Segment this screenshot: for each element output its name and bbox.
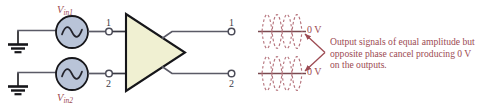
output-waveform-1 [258,15,306,49]
ground-1 [8,31,28,52]
output-terminal-2[interactable] [228,70,235,77]
ground-2 [8,73,28,94]
voltage-source-vin2[interactable] [56,58,88,90]
source-label-vin1: Vin1 [57,5,73,16]
output-terminal-2-label: 2 [229,79,234,89]
output-waveform-2 [258,57,306,91]
differential-amplifier[interactable] [126,14,185,91]
wire-amp-to-output2 [162,67,228,74]
annotation-line-1: Output signals of equal amplitude but [330,36,488,48]
wire-ground2-to-source2 [18,73,56,74]
annotation-line-3: on the outputs. [330,59,488,71]
input-terminal-2-label: 2 [106,79,111,89]
voltage-source-vin1[interactable] [56,16,88,48]
annotation-text: Output signals of equal amplitude but op… [330,36,488,71]
source-label-vin2: Vin2 [57,93,73,104]
input-terminal-1-label: 1 [106,18,111,28]
input-terminal-2[interactable] [106,70,113,77]
annotation-line-2: opposite phase cancel producing 0 V [330,48,488,60]
output-terminal-1[interactable] [228,28,235,35]
output-terminal-1-label: 1 [229,18,234,28]
zero-volt-label-1: 0 V [307,25,322,35]
callout-arrow-to-waveform-1 [305,34,325,53]
figure-canvas: Vin1 Vin2 1 2 1 2 0 V 0 V Output signals… [0,0,490,109]
zero-volt-label-2: 0 V [307,67,322,77]
wire-amp-to-output1 [162,32,228,39]
input-terminal-1[interactable] [106,28,113,35]
wire-ground1-to-source1 [18,31,56,32]
